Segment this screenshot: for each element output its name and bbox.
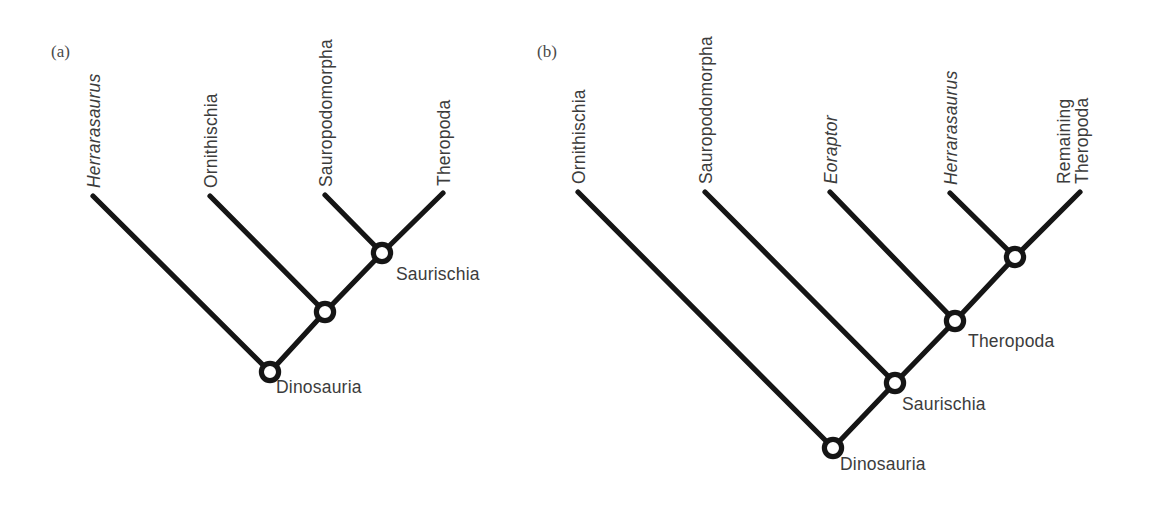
tip-label-ornithischia-a: Ornithischia (201, 93, 221, 188)
tip-label-herrarasaurus-b: Herrarasaurus (941, 71, 961, 185)
branch-theropoda (382, 193, 443, 253)
tip-label-sauropodomorpha-b: Sauropodomorpha (696, 36, 716, 184)
node-unlabeled-b (1006, 248, 1023, 265)
node-label-dinosauria-a: Dinosauria (276, 377, 362, 397)
branch-saurischia-to-theropoda-b (895, 321, 955, 383)
node-label-saurischia-a: Saurischia (396, 264, 480, 284)
branch-sauropodomorpha (325, 195, 382, 253)
branch-eoraptor-b (830, 192, 955, 321)
panel-b-marker: (b) (537, 42, 557, 61)
panel-b-branches (578, 192, 1080, 448)
branch-ornithischia (210, 196, 325, 312)
tip-label-theropoda-b: Theropoda (1072, 97, 1092, 184)
branch-internal-to-saurischia (325, 253, 382, 312)
branch-dinosauria-to-internal (270, 312, 325, 372)
node-label-theropoda-b: Theropoda (968, 331, 1055, 351)
branch-remaining-theropoda-b (1015, 192, 1080, 257)
tip-label-sauropodomorpha-a: Sauropodomorpha (316, 39, 336, 187)
node-saurischia-a (373, 244, 390, 261)
branch-herrarasaurus-b (950, 193, 1015, 257)
cladogram-figure: (a) Herrarasaurus Ornithischia Sauropodo… (0, 0, 1152, 507)
node-theropoda-b (946, 312, 963, 329)
panel-a-marker: (a) (51, 42, 70, 61)
panel-a: (a) Herrarasaurus Ornithischia Sauropodo… (51, 39, 480, 397)
tip-label-theropoda-a: Theropoda (434, 99, 454, 186)
node-label-dinosauria-b: Dinosauria (840, 454, 926, 474)
tip-label-remaining-b: Remaining (1054, 99, 1074, 184)
tip-label-eoraptor-b: Eoraptor (821, 114, 841, 184)
tip-label-herrarasaurus-a: Herrarasaurus (84, 74, 104, 188)
tip-label-ornithischia-b: Ornithischia (569, 89, 589, 184)
branch-dinosauria-to-saurischia-b (833, 383, 895, 448)
branch-sauropodomorpha-b (705, 192, 895, 383)
branch-ornithischia-b (578, 192, 833, 448)
cladogram-canvas: (a) Herrarasaurus Ornithischia Sauropodo… (0, 0, 1152, 507)
node-unlabeled-a (316, 303, 333, 320)
panel-a-branches (93, 193, 443, 372)
node-label-saurischia-b: Saurischia (902, 394, 986, 414)
branch-theropoda-to-internal-b (955, 257, 1015, 321)
node-saurischia-b (886, 374, 903, 391)
panel-b: (b) Ornithischia Sauropodomorpha Eorapto… (537, 36, 1092, 474)
branch-herrarasaurus (93, 196, 270, 372)
